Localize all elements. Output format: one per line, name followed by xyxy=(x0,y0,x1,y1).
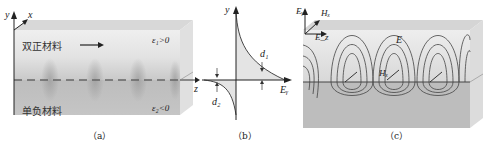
panel-c: Eᵧ Hₓ E_z E Hₓ （c） xyxy=(295,0,488,145)
axis-y-label: y xyxy=(5,9,9,20)
upper-permittivity-label: ε₁>0 xyxy=(152,35,169,45)
field-h-label: Hₓ xyxy=(379,68,388,78)
panel-b-graph xyxy=(200,0,300,145)
field-e-label: E xyxy=(396,34,402,45)
caption-b: （b） xyxy=(233,129,257,142)
axis-z-label: z xyxy=(194,83,198,94)
graph-y-label: y xyxy=(225,4,229,15)
panel-c-field-diagram xyxy=(295,0,488,145)
decay-length-d2-label: d₂ xyxy=(212,96,220,107)
axis-ez-label: E_z xyxy=(315,32,329,42)
caption-c: （c） xyxy=(385,129,408,142)
lower-permittivity-label: ε₂<0 xyxy=(152,103,169,113)
axis-hx-label: Hₓ xyxy=(321,8,330,18)
panel-a: y x z 双正材料 ε₁>0 单负材料 ε₂<0 （a） xyxy=(0,0,200,145)
lower-material-label: 单负材料 xyxy=(22,103,62,118)
panel-a-illustration xyxy=(0,0,200,145)
upper-material-label: 双正材料 xyxy=(22,38,62,53)
graph-x-label: Eᵧ xyxy=(280,84,288,95)
decay-length-d1-label: d₁ xyxy=(260,48,268,59)
caption-a: （a） xyxy=(88,129,111,142)
axis-x-label: x xyxy=(28,9,32,20)
axis-ey-label: Eᵧ xyxy=(296,6,304,16)
panel-b: y Eᵧ d₁ d₂ （b） xyxy=(200,0,300,145)
